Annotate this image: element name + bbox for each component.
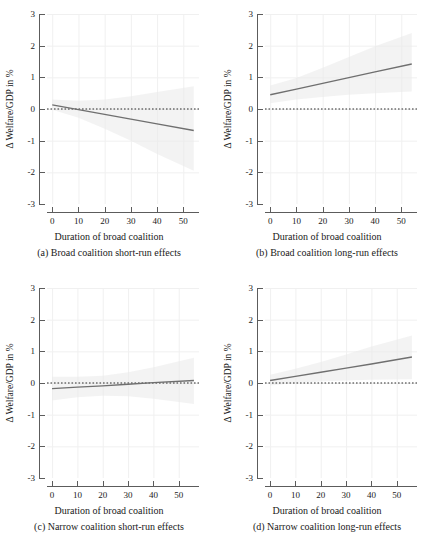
x-tick-mark bbox=[401, 207, 402, 213]
x-tick-mark bbox=[346, 481, 347, 487]
y-tick-mark bbox=[257, 446, 263, 447]
y-tick-label: -3 bbox=[246, 200, 254, 209]
y-tick-mark bbox=[39, 172, 45, 173]
x-tick-mark bbox=[323, 207, 324, 213]
plot-canvas-c bbox=[47, 288, 199, 478]
y-tick-label: 2 bbox=[31, 315, 36, 324]
x-tick-label: 30 bbox=[124, 490, 133, 500]
plot-wrapper-c: -3-2-1012301020304050 bbox=[47, 288, 199, 478]
marginal-effects-figure: Δ Welfare/GDP in %-3-2-1012301020304050D… bbox=[0, 0, 436, 548]
y-tick-label: 3 bbox=[31, 284, 36, 293]
x-tick-label: 10 bbox=[292, 216, 301, 226]
x-tick-label: 40 bbox=[153, 216, 162, 226]
x-tick-label: 10 bbox=[73, 490, 82, 500]
y-tick-mark bbox=[39, 415, 45, 416]
y-tick-mark bbox=[39, 77, 45, 78]
y-tick-label: -2 bbox=[28, 442, 36, 451]
x-tick-mark bbox=[321, 481, 322, 487]
y-tick-label: 1 bbox=[31, 347, 36, 356]
y-tick-mark bbox=[39, 204, 45, 205]
x-tick-label: 0 bbox=[50, 216, 55, 226]
x-tick-mark bbox=[375, 207, 376, 213]
panel-caption-b: (b) Broad coalition long-run effects bbox=[218, 247, 436, 259]
x-tick-mark bbox=[105, 207, 106, 213]
y-axis-title-text: Δ Welfare/GDP in % bbox=[5, 343, 15, 422]
y-tick-label: -3 bbox=[28, 474, 36, 483]
x-tick-mark bbox=[103, 481, 104, 487]
y-tick-mark bbox=[39, 446, 45, 447]
x-tick-mark bbox=[270, 207, 271, 213]
plot-wrapper-b: -3-2-1012301020304050 bbox=[265, 14, 417, 204]
x-axis-spine bbox=[265, 212, 417, 213]
plot-canvas-d bbox=[265, 288, 417, 478]
y-tick-mark bbox=[39, 383, 45, 384]
x-tick-label: 20 bbox=[318, 216, 327, 226]
x-tick-mark bbox=[128, 481, 129, 487]
y-tick-mark bbox=[257, 288, 263, 289]
x-tick-label: 50 bbox=[179, 216, 188, 226]
y-tick-label: 3 bbox=[31, 10, 36, 19]
plot-canvas-a bbox=[47, 14, 199, 204]
x-tick-label: 20 bbox=[316, 490, 325, 500]
y-tick-label: 1 bbox=[249, 347, 254, 356]
y-axis-title: Δ Welfare/GDP in % bbox=[4, 14, 16, 204]
x-tick-mark bbox=[52, 481, 53, 487]
y-tick-mark bbox=[257, 109, 263, 110]
x-tick-label: 50 bbox=[392, 490, 401, 500]
plot-area-a bbox=[47, 14, 199, 204]
x-tick-mark bbox=[52, 207, 53, 213]
y-tick-label: 3 bbox=[249, 10, 254, 19]
y-tick-label: -1 bbox=[28, 136, 36, 145]
panel-b: Δ Welfare/GDP in %-3-2-1012301020304050D… bbox=[218, 0, 436, 274]
y-tick-label: 0 bbox=[31, 105, 36, 114]
x-tick-mark bbox=[183, 207, 184, 213]
x-tick-mark bbox=[77, 481, 78, 487]
x-axis-title: Duration of broad coalition bbox=[0, 505, 218, 517]
y-tick-mark bbox=[257, 320, 263, 321]
x-tick-label: 0 bbox=[268, 216, 273, 226]
y-tick-mark bbox=[257, 14, 263, 15]
y-axis-title-text: Δ Welfare/GDP in % bbox=[223, 343, 233, 422]
x-axis-spine bbox=[47, 212, 199, 213]
y-tick-mark bbox=[257, 351, 263, 352]
y-tick-label: -2 bbox=[246, 168, 254, 177]
x-axis-spine bbox=[47, 486, 199, 487]
y-tick-mark bbox=[257, 478, 263, 479]
panel-c: Δ Welfare/GDP in %-3-2-1012301020304050D… bbox=[0, 274, 218, 548]
x-tick-mark bbox=[295, 481, 296, 487]
x-tick-mark bbox=[296, 207, 297, 213]
y-tick-mark bbox=[257, 46, 263, 47]
panel-caption-d: (d) Narrow coalition long-run effects bbox=[218, 521, 436, 533]
y-axis-title-text: Δ Welfare/GDP in % bbox=[223, 69, 233, 148]
plot-area-d bbox=[265, 288, 417, 478]
y-axis-title: Δ Welfare/GDP in % bbox=[4, 288, 16, 478]
x-tick-label: 50 bbox=[397, 216, 406, 226]
x-tick-mark bbox=[179, 481, 180, 487]
panel-caption-a: (a) Broad coalition short-run effects bbox=[0, 247, 218, 259]
y-tick-label: -3 bbox=[246, 474, 254, 483]
y-tick-mark bbox=[39, 478, 45, 479]
y-tick-label: -3 bbox=[28, 200, 36, 209]
y-tick-label: 2 bbox=[249, 315, 254, 324]
y-axis-title-text: Δ Welfare/GDP in % bbox=[5, 69, 15, 148]
y-axis-title: Δ Welfare/GDP in % bbox=[222, 14, 234, 204]
y-tick-mark bbox=[39, 320, 45, 321]
x-tick-label: 30 bbox=[126, 216, 135, 226]
y-tick-mark bbox=[257, 383, 263, 384]
x-tick-label: 0 bbox=[268, 490, 273, 500]
y-tick-label: -2 bbox=[28, 168, 36, 177]
x-tick-mark bbox=[153, 481, 154, 487]
y-tick-mark bbox=[257, 204, 263, 205]
y-tick-label: -1 bbox=[246, 410, 254, 419]
y-tick-label: 1 bbox=[249, 73, 254, 82]
x-tick-mark bbox=[131, 207, 132, 213]
x-tick-mark bbox=[397, 481, 398, 487]
y-tick-label: -2 bbox=[246, 442, 254, 451]
y-tick-label: 0 bbox=[249, 379, 254, 388]
y-tick-mark bbox=[39, 141, 45, 142]
x-axis-title: Duration of broad coalition bbox=[218, 231, 436, 243]
y-tick-mark bbox=[257, 172, 263, 173]
y-tick-mark bbox=[39, 109, 45, 110]
y-tick-mark bbox=[257, 415, 263, 416]
x-tick-label: 30 bbox=[342, 490, 351, 500]
